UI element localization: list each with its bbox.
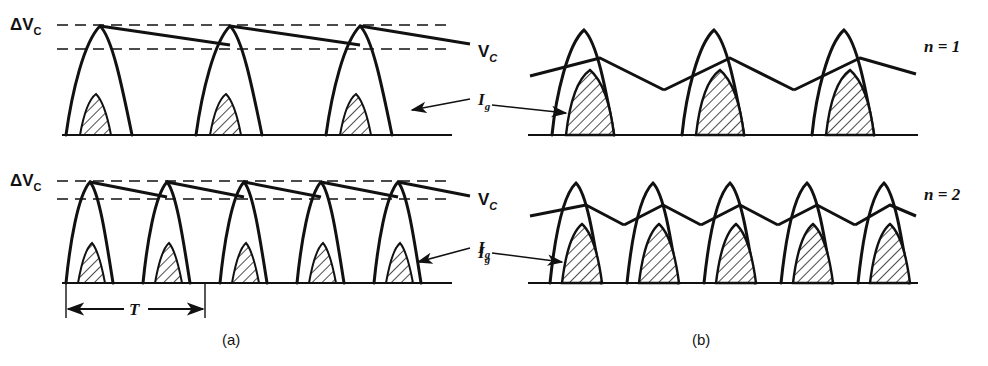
mode-label-n1: n = 1: [924, 37, 960, 56]
period-label: T: [129, 300, 140, 319]
caption-b: (b): [692, 331, 710, 348]
waveform-figure: ΔVC VC Ig ΔVC: [0, 0, 988, 366]
figure-container: ΔVC VC Ig ΔVC: [0, 0, 988, 366]
caption-a: (a): [222, 331, 240, 348]
mode-label-n2: n = 2: [924, 185, 961, 204]
